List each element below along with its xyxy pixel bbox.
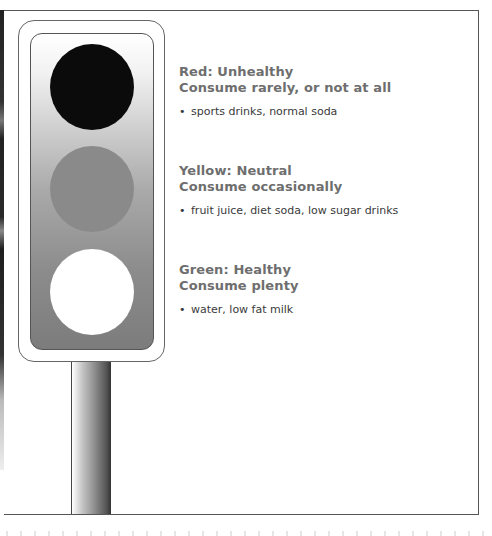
category-green: Green: Healthy Consume plenty •water, lo… xyxy=(179,262,299,317)
yellow-lamp-icon xyxy=(50,146,134,232)
category-item-text: water, low fat milk xyxy=(191,303,293,316)
category-subtitle: Consume plenty xyxy=(179,278,299,294)
category-item-text: fruit juice, diet soda, low sugar drinks xyxy=(191,204,398,217)
cropped-caption-text xyxy=(0,531,492,536)
category-title: Green: Healthy xyxy=(179,262,299,278)
traffic-light-pole xyxy=(71,362,111,514)
category-item: •water, low fat milk xyxy=(179,303,299,317)
category-red: Red: Unhealthy Consume rarely, or not at… xyxy=(179,64,391,119)
red-lamp-icon xyxy=(50,44,134,130)
bullet-icon: • xyxy=(179,105,191,119)
category-item-text: sports drinks, normal soda xyxy=(191,105,337,118)
category-title: Yellow: Neutral xyxy=(179,163,398,179)
category-item: •fruit juice, diet soda, low sugar drink… xyxy=(179,204,398,218)
category-item: •sports drinks, normal soda xyxy=(179,105,391,119)
green-lamp-icon xyxy=(50,249,134,335)
category-title: Red: Unhealthy xyxy=(179,64,391,80)
bullet-icon: • xyxy=(179,204,191,218)
bullet-icon: • xyxy=(179,303,191,317)
category-yellow: Yellow: Neutral Consume occasionally •fr… xyxy=(179,163,398,218)
category-subtitle: Consume rarely, or not at all xyxy=(179,80,391,96)
category-subtitle: Consume occasionally xyxy=(179,179,398,195)
